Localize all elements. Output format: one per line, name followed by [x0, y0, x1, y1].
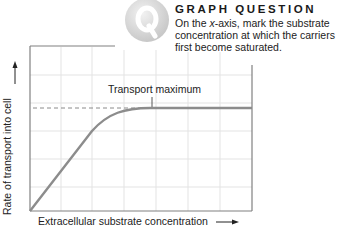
transport-maximum-label: Transport maximum: [108, 83, 201, 95]
transport-chart: [0, 0, 345, 237]
plot-frame: [30, 46, 252, 211]
y-axis-arrow-icon: [13, 61, 18, 84]
y-axis-label: Rate of transport into cell: [1, 98, 13, 215]
x-axis-label: Extracellular substrate concentration: [38, 215, 208, 227]
grid-lines: [30, 47, 252, 211]
x-axis-arrow-icon: [216, 220, 239, 225]
